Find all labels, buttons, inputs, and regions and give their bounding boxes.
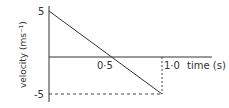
x-axis-label: time (s): [187, 60, 226, 71]
x-tick-0-5: 0·5: [97, 60, 113, 71]
y-tick-neg5: -5: [34, 89, 44, 100]
y-tick-5: 5: [38, 6, 44, 17]
y-axis-label: velocity (ms⁻¹): [18, 21, 28, 88]
velocity-time-graph: 5 -5 0·5 1·0 time (s) velocity (ms⁻¹): [0, 0, 229, 108]
velocity-line: [49, 11, 162, 94]
x-tick-1-0: 1·0: [164, 60, 180, 71]
